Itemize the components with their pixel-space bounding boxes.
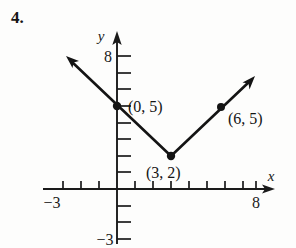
x-tick-label-neg3: −3 [43,194,60,211]
axis-group [43,31,275,244]
y-tick-label-neg3: −3 [96,231,113,248]
figure-container: 4. [0,0,296,248]
coordinate-plane-graph: y x −3 8 8 −3 (0, 5) (3, 2) (6, 5) [0,0,296,248]
point-label-0-5: (0, 5) [128,98,163,116]
x-axis-label: x [267,168,275,184]
point-label-6-5: (6, 5) [228,110,263,128]
y-axis-ticks [117,56,131,239]
x-tick-label-8: 8 [252,194,260,211]
point-3-2-marker [167,152,175,160]
y-axis-label: y [96,28,105,44]
x-axis-ticks [63,181,256,189]
point-6-5-marker [217,103,225,111]
y-tick-label-8: 8 [104,48,112,65]
point-label-3-2: (3, 2) [146,164,181,182]
point-0-5-marker [113,102,121,110]
